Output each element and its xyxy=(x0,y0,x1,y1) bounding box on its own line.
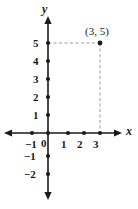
x-axis-right-arrowhead xyxy=(114,129,122,136)
y-tick-label-5: 5 xyxy=(33,38,39,49)
y-tick-dot xyxy=(46,59,50,63)
coordinate-plane-figure: −1 0 1 2 3 5 4 3 2 1 −1 −2 (3, 5) x y xyxy=(0,0,138,209)
y-tick-dot xyxy=(46,154,50,158)
y-tick-label-minus-2: −2 xyxy=(24,169,36,180)
y-tick-label-minus-1: −1 xyxy=(24,151,36,162)
point-coordinate-label: (3, 5) xyxy=(85,26,109,37)
y-tick-dot xyxy=(46,77,50,81)
y-axis-bottom-arrowhead xyxy=(44,192,51,200)
x-tick-label-minus-1: −1 xyxy=(25,139,37,150)
plotted-point-3-5 xyxy=(98,41,103,46)
x-tick-label-3: 3 xyxy=(93,139,99,150)
y-tick-label-4: 4 xyxy=(33,56,39,67)
y-tick-dot xyxy=(46,41,50,45)
x-tick-dot xyxy=(30,131,34,135)
x-axis-group xyxy=(4,129,122,136)
x-axis-name: x xyxy=(126,125,132,137)
y-tick-label-2: 2 xyxy=(33,92,39,103)
x-tick-dot xyxy=(82,131,86,135)
coordinate-plane-canvas xyxy=(0,0,138,209)
x-tick-dot xyxy=(66,131,70,135)
y-axis-name: y xyxy=(42,3,47,15)
x-tick-label-0: 0 xyxy=(41,138,47,149)
y-tick-dot xyxy=(46,113,50,117)
y-tick-label-1: 1 xyxy=(33,110,39,121)
x-tick-label-2: 2 xyxy=(77,139,83,150)
guide-lines-group xyxy=(48,43,100,133)
x-tick-dot xyxy=(98,131,102,135)
x-tick-dot xyxy=(46,131,50,135)
y-tick-dot xyxy=(46,95,50,99)
y-tick-dot xyxy=(46,172,50,176)
y-axis-top-arrowhead xyxy=(44,16,51,24)
x-axis-left-arrowhead xyxy=(4,129,12,136)
y-tick-label-3: 3 xyxy=(33,74,39,85)
x-tick-label-1: 1 xyxy=(61,139,67,150)
